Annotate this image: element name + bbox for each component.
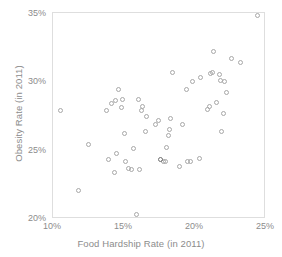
data-point	[131, 146, 136, 151]
data-point	[58, 108, 63, 113]
data-point	[210, 70, 215, 75]
data-point	[123, 159, 128, 164]
data-point	[255, 13, 260, 18]
data-point	[140, 104, 145, 109]
data-point	[156, 118, 161, 123]
data-point	[119, 105, 124, 110]
data-point	[224, 90, 229, 95]
scatter-chart: 35% 30% 25% 20% 10% 15% 20% 25% Food Har…	[0, 0, 282, 257]
data-point	[129, 167, 134, 172]
data-point	[190, 79, 195, 84]
plot-area	[52, 12, 265, 218]
data-point	[219, 129, 224, 134]
data-point	[221, 111, 226, 116]
data-point	[167, 127, 172, 132]
data-point	[137, 167, 142, 172]
y-tick-label-35: 35%	[6, 8, 46, 18]
data-point	[168, 116, 173, 121]
data-point	[238, 60, 243, 65]
data-point	[188, 159, 193, 164]
data-point	[163, 159, 168, 164]
data-point	[214, 100, 219, 105]
data-point	[207, 104, 212, 109]
data-point	[144, 114, 149, 119]
y-axis-title: Obesity Rate (in 2011)	[13, 44, 24, 184]
data-point	[134, 212, 139, 217]
data-point	[184, 87, 189, 92]
data-point	[180, 122, 185, 127]
data-point	[122, 131, 127, 136]
x-tick-label-20: 20%	[174, 221, 214, 231]
data-point	[164, 145, 169, 150]
data-point	[106, 157, 111, 162]
data-point	[197, 156, 202, 161]
data-point	[143, 129, 148, 134]
data-point	[217, 72, 222, 77]
data-point	[114, 151, 119, 156]
x-axis-title: Food Hardship Rate (in 2011)	[0, 238, 282, 249]
data-point	[116, 87, 121, 92]
data-point	[136, 97, 141, 102]
data-point	[86, 142, 91, 147]
data-point	[222, 79, 227, 84]
data-point	[170, 70, 175, 75]
x-tick-label-10: 10%	[32, 221, 72, 231]
data-point	[104, 108, 109, 113]
data-point	[113, 98, 118, 103]
data-point	[120, 97, 125, 102]
data-point	[211, 49, 216, 54]
x-tick-label-15: 15%	[103, 221, 143, 231]
data-point	[198, 75, 203, 80]
data-point	[177, 164, 182, 169]
data-point	[166, 133, 171, 138]
data-point	[112, 170, 117, 175]
data-point	[229, 56, 234, 61]
x-tick-label-25: 25%	[245, 221, 282, 231]
data-point	[76, 188, 81, 193]
